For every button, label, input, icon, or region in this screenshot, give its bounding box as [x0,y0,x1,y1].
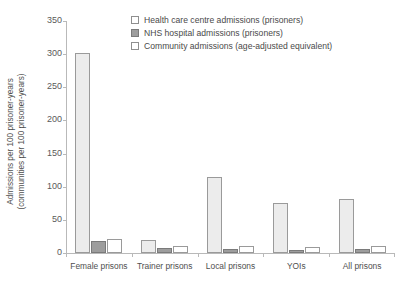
y-axis-title: Admissions per 100 prisoner-years (commu… [6,22,27,262]
bar [107,239,122,253]
x-axis-tick-label: All prisons [329,261,395,271]
y-axis-line [66,21,67,253]
bar [239,246,254,253]
bar [371,246,386,253]
bar [223,249,238,253]
bar [141,240,156,253]
bar [289,250,304,253]
bar [273,203,288,253]
y-axis-tick-label: 350 [32,15,62,25]
x-axis-line [66,253,395,254]
bar [305,247,320,253]
bar-chart: Admissions per 100 prisoner-years (commu… [0,0,407,288]
x-axis-tick-mark [329,253,330,257]
y-axis-tick-mark [63,120,67,121]
y-axis-tick-label: 250 [32,81,62,91]
x-axis-tick-mark [394,253,395,257]
x-axis-tick-label: Female prisons [66,261,132,271]
y-axis-tick-mark [63,54,67,55]
x-axis-tick-mark [132,253,133,257]
y-axis-tick-label: 300 [32,48,62,58]
bar [91,241,106,253]
bar [355,249,370,253]
bar [207,177,222,253]
bar [157,248,172,253]
bar [75,53,90,253]
x-axis-tick-label: Trainer prisons [132,261,198,271]
bar [173,246,188,253]
x-axis-tick-label: Local prisons [198,261,264,271]
x-axis-tick-label: YOIs [263,261,329,271]
x-axis-tick-mark [66,253,67,257]
x-axis-tick-mark [263,253,264,257]
y-axis-tick-label: 50 [32,214,62,224]
x-axis-tick-mark [198,253,199,257]
y-axis-tick-mark [63,187,67,188]
y-axis-tick-mark [63,154,67,155]
y-axis-tick-mark [63,220,67,221]
y-axis-tick-mark [63,87,67,88]
y-axis-tick-label: 200 [32,114,62,124]
bar [339,199,354,253]
y-axis-tick-label: 100 [32,181,62,191]
y-axis-tick-label: 0 [32,247,62,257]
y-axis-tick-label: 150 [32,148,62,158]
plot-area: 050100150200250300350 Female prisonsTrai… [66,21,395,253]
y-axis-tick-mark [63,21,67,22]
